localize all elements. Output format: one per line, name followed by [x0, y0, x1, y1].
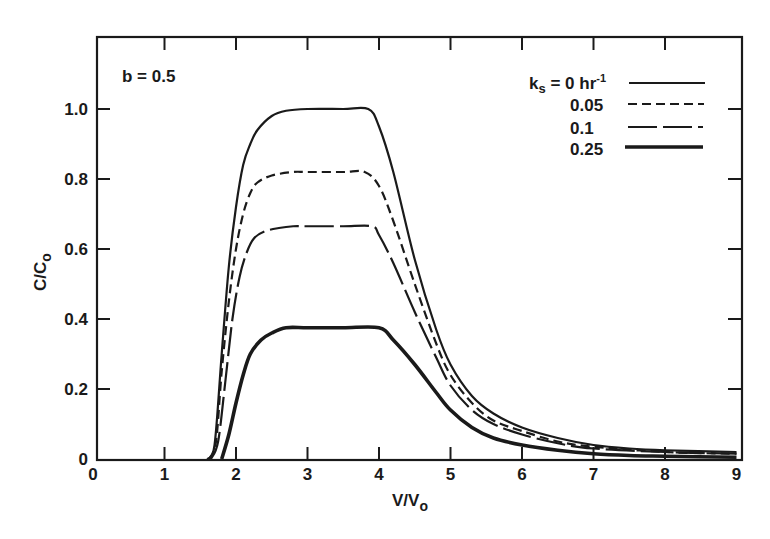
x-tick-label: 1	[160, 465, 169, 484]
y-axis-title-sub: o	[38, 253, 54, 262]
legend-label-0-text: = 0 hr	[546, 74, 597, 93]
x-tick-label: 6	[517, 465, 526, 484]
annotation-b: b = 0.5	[122, 67, 175, 86]
x-tick-label: 0	[88, 465, 97, 484]
x-tick-label: 8	[660, 465, 669, 484]
y-tick-label: 0.8	[64, 170, 88, 189]
y-tick-label: 0.4	[64, 310, 88, 329]
x-tick-label: 7	[589, 465, 598, 484]
plot-frame	[97, 37, 742, 460]
series-line-1	[209, 171, 737, 459]
svg-text:C/Co: C/Co	[31, 253, 54, 291]
legend-k-sub: s	[538, 81, 545, 96]
legend: ks = 0 hr-1 0.05 0.1 0.25	[529, 72, 705, 159]
legend-label-0: ks = 0 hr-1	[529, 72, 606, 96]
x-axis-title-sub: o	[419, 498, 428, 514]
chart: 0123456789 00.20.40.60.81.0 b = 0.5 C/Co…	[0, 0, 770, 539]
y-tick-label: 1.0	[64, 100, 88, 119]
x-axis-title-main: V/V	[392, 491, 420, 510]
x-tick-label: 2	[231, 465, 240, 484]
y-axis-ticks: 00.20.40.60.81.0	[64, 100, 742, 469]
x-tick-label: 5	[446, 465, 455, 484]
x-tick-label: 9	[732, 465, 741, 484]
legend-label-1: 0.05	[570, 96, 603, 115]
series-line-3	[222, 327, 737, 459]
series-lines	[207, 108, 736, 459]
legend-label-3: 0.25	[570, 140, 603, 159]
y-axis-title-main: C/C	[31, 262, 50, 291]
x-tick-label: 3	[303, 465, 312, 484]
series-line-0	[207, 108, 736, 459]
y-tick-label: 0.6	[64, 240, 88, 259]
series-line-2	[211, 226, 737, 459]
x-axis-title: V/Vo	[392, 491, 428, 514]
legend-label-0-sup: -1	[596, 72, 606, 84]
y-tick-label: 0	[79, 450, 88, 469]
y-tick-label: 0.2	[64, 380, 88, 399]
y-axis-title: C/Co	[31, 253, 54, 291]
legend-label-2: 0.1	[570, 119, 594, 138]
x-tick-label: 4	[374, 465, 384, 484]
